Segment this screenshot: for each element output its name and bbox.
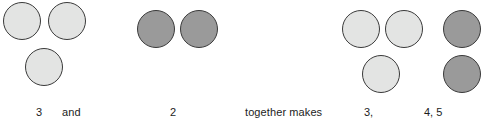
counter-dark-2 xyxy=(180,10,218,48)
label-addend-1: 3 xyxy=(36,106,42,119)
counter-light-3 xyxy=(25,48,63,86)
counting-worksheet: 3 and 2 together makes 3, 4, 5 xyxy=(0,0,491,131)
label-together-makes: together makes xyxy=(245,106,322,119)
label-addend-2: 2 xyxy=(170,106,176,119)
counter-sum-light-1 xyxy=(342,10,380,48)
counter-dark-1 xyxy=(137,10,175,48)
counter-sum-dark-2 xyxy=(443,55,481,93)
counter-sum-dark-1 xyxy=(443,10,481,48)
label-sum-dark-part: 4, 5 xyxy=(424,106,442,119)
counter-sum-light-2 xyxy=(385,10,423,48)
label-sum-light-part: 3, xyxy=(364,106,373,119)
counter-light-2 xyxy=(48,2,86,40)
counter-light-1 xyxy=(3,2,41,40)
label-and: and xyxy=(62,106,81,119)
counter-sum-light-3 xyxy=(362,55,400,93)
